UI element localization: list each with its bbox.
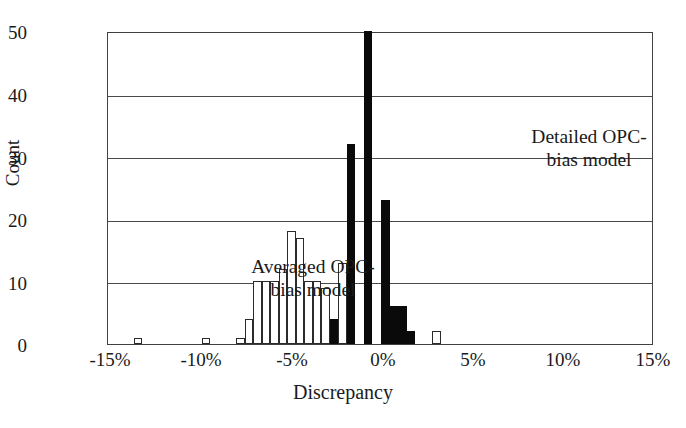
x-tick-label: -5% [247, 349, 337, 371]
averaged-model-annotation: Averaged OPC- bias model [218, 255, 408, 301]
histogram-bar [245, 319, 254, 344]
x-tick-label: 10% [518, 349, 608, 371]
histogram-bar [398, 306, 407, 344]
histogram-bar [330, 319, 339, 344]
x-tick-label: -15% [65, 349, 155, 371]
histogram-bar [407, 331, 416, 344]
y-tick-label: 40 [0, 86, 27, 105]
histogram-figure: Count 50 40 30 20 10 0 Averaged OPC- bia… [0, 0, 686, 428]
histogram-bar [390, 306, 399, 344]
x-tick-label: -10% [156, 349, 246, 371]
histogram-bar [236, 338, 245, 344]
detailed-model-annotation: Detailed OPC- bias model [496, 125, 682, 171]
y-tick-label: 50 [0, 23, 27, 42]
y-tick-label: 20 [0, 211, 27, 230]
y-tick-label: 10 [0, 274, 27, 293]
y-tick-label: 0 [0, 336, 27, 355]
x-tick-label: 5% [428, 349, 518, 371]
histogram-bar [432, 331, 441, 344]
x-axis-label: Discrepancy [0, 381, 686, 404]
x-tick-label: 0% [338, 349, 428, 371]
x-tick-label: 15% [608, 349, 686, 371]
histogram-bar [134, 338, 143, 344]
plot-area: Averaged OPC- bias model Detailed OPC- b… [107, 32, 653, 345]
histogram-bar [347, 144, 356, 344]
histogram-bar [202, 338, 211, 344]
y-tick-label: 30 [0, 149, 27, 168]
